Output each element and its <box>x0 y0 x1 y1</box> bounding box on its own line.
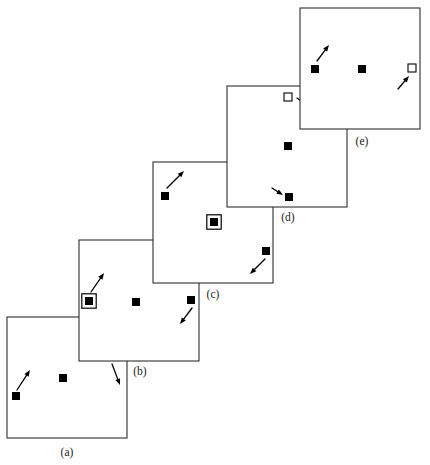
panel-label-c: (c) <box>207 288 220 301</box>
marker-b-right[interactable] <box>187 296 195 304</box>
panel-label-b: (b) <box>133 365 147 378</box>
panels-layer <box>7 8 420 438</box>
marker-d-center[interactable] <box>284 142 292 150</box>
marker-b-center[interactable] <box>132 298 140 306</box>
panel-e[interactable] <box>300 8 420 129</box>
panel-sequence-figure: (a)(b)(c)(d)(e) <box>0 0 430 465</box>
marker-c-center-selected[interactable] <box>210 218 218 226</box>
marker-c-left[interactable] <box>161 192 169 200</box>
figure-container: (a)(b)(c)(d)(e) <box>0 0 430 465</box>
marker-a-left[interactable] <box>12 392 20 400</box>
marker-d-bottom[interactable] <box>285 193 293 201</box>
marker-b-left-selected[interactable] <box>85 297 93 305</box>
marker-a-center[interactable] <box>59 374 67 382</box>
panel-label-d: (d) <box>281 211 295 224</box>
marker-e-left[interactable] <box>311 65 319 73</box>
marker-c-right[interactable] <box>262 247 270 255</box>
panel-label-e: (e) <box>356 135 369 148</box>
panel-label-a: (a) <box>61 446 74 459</box>
marker-e-right-open[interactable] <box>408 64 416 72</box>
marker-d-top-open[interactable] <box>284 93 292 101</box>
marker-e-center[interactable] <box>358 65 366 73</box>
